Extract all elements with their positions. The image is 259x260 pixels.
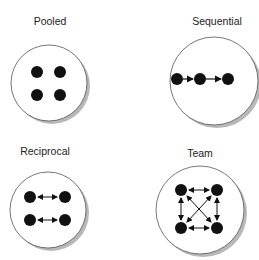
pooled-circle xyxy=(11,45,87,121)
interdependence-diagram xyxy=(0,0,259,260)
sequential-node xyxy=(222,73,234,85)
sequential-panel xyxy=(170,37,259,128)
pooled-panel xyxy=(11,45,90,124)
team-node xyxy=(211,222,223,234)
sequential-node xyxy=(194,73,206,85)
reciprocal-node xyxy=(24,191,36,203)
reciprocal-panel xyxy=(10,172,89,251)
pooled-node xyxy=(31,66,43,78)
reciprocal-node xyxy=(59,214,71,226)
pooled-node xyxy=(31,89,43,101)
pooled-node xyxy=(54,89,66,101)
reciprocal-circle xyxy=(10,172,86,248)
reciprocal-node xyxy=(24,214,36,226)
team-panel xyxy=(156,166,247,257)
team-node xyxy=(175,222,187,234)
reciprocal-node xyxy=(59,191,71,203)
sequential-node xyxy=(171,73,183,85)
pooled-node xyxy=(54,66,66,78)
team-node xyxy=(175,184,187,196)
team-node xyxy=(211,184,223,196)
sequential-circle xyxy=(170,37,258,125)
